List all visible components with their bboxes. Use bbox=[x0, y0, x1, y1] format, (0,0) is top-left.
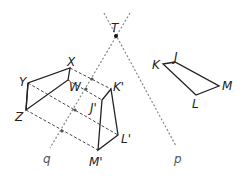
label-m: M bbox=[222, 79, 233, 93]
label-k-prime: K' bbox=[113, 80, 124, 94]
midpoint-dot bbox=[60, 129, 63, 132]
label-x: X bbox=[66, 55, 76, 69]
midpoint-dot bbox=[73, 108, 76, 111]
label-y: Y bbox=[19, 75, 28, 89]
label-z: Z bbox=[14, 110, 24, 124]
label-p: p bbox=[173, 152, 182, 166]
label-t: T bbox=[111, 21, 120, 35]
label-l: L bbox=[192, 97, 199, 111]
reflection-diagram: T X Y W Z K' J' L' M' K J M L q p bbox=[0, 0, 247, 178]
label-w: W bbox=[69, 80, 82, 94]
midpoint-dot bbox=[84, 87, 87, 90]
label-m-prime: M' bbox=[89, 155, 103, 169]
quad-jklm bbox=[163, 62, 219, 95]
label-l-prime: L' bbox=[121, 132, 131, 146]
label-k: K bbox=[152, 58, 161, 72]
midpoint-dot bbox=[90, 77, 93, 80]
quad-jklm-prime bbox=[98, 89, 118, 150]
label-q: q bbox=[43, 152, 51, 166]
label-j-prime: J' bbox=[88, 101, 97, 115]
